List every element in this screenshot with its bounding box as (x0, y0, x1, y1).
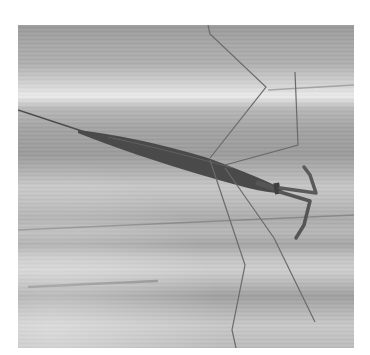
mid-leg-upper (208, 25, 266, 158)
leaf-vein-streak (28, 281, 158, 287)
mid-leg-lower (210, 160, 245, 348)
insect-photograph (18, 25, 354, 348)
tail-siphon (18, 110, 88, 133)
leaf-vein-streak (18, 215, 354, 230)
insect-prothorax (258, 183, 280, 190)
foreleg-upper (280, 167, 316, 193)
body-highlight (108, 137, 233, 168)
leaf-vein-streak (268, 85, 354, 90)
hind-leg-upper (225, 72, 298, 165)
hind-leg-lower (225, 168, 315, 322)
insect-head (273, 183, 281, 195)
insect-body (78, 130, 282, 193)
foreleg-lower (280, 192, 310, 238)
water-stick-insect (18, 25, 354, 348)
